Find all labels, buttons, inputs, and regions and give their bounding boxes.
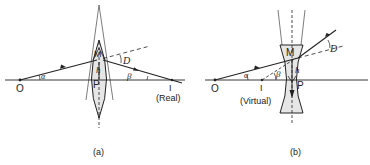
label-a-p: P <box>93 79 100 90</box>
caption-a: (a) <box>93 147 104 157</box>
label-b-alpha: α <box>244 71 249 80</box>
label-b-i: I <box>260 83 263 93</box>
point-b-i <box>261 79 263 81</box>
label-a-o: O <box>16 83 24 94</box>
point-a-i <box>171 79 173 81</box>
label-b-virtual: (Virtual) <box>240 96 271 106</box>
angle-a-alpha-arc <box>39 75 40 80</box>
point-b-o <box>214 79 217 82</box>
lens-ray-diagrams: O I (Real) M P h α β D (a) <box>0 0 370 165</box>
figure-a: O I (Real) M P h α β D (a) <box>5 5 185 157</box>
label-a-real: (Real) <box>156 93 181 103</box>
label-b-p: P <box>297 80 304 91</box>
label-a-h: h <box>96 65 101 75</box>
label-a-i: I <box>169 83 172 93</box>
lens-b-outer-left <box>278 10 282 45</box>
ray-b-extension <box>298 46 345 59</box>
label-a-d: D <box>122 55 131 66</box>
label-b-d: D <box>329 43 338 54</box>
caption-b: (b) <box>290 147 301 157</box>
point-a-o <box>19 79 22 82</box>
arrow-a-refracted-icon <box>133 67 139 71</box>
angle-a-d-arc <box>120 55 121 63</box>
angle-a-beta-arc <box>147 76 148 80</box>
label-a-m: M <box>94 49 102 59</box>
ray-a-incident <box>20 60 97 80</box>
label-b-h: h <box>295 65 300 75</box>
label-a-beta: β <box>126 71 132 81</box>
figure-b: O I (Virtual) M P h α β D (b) <box>205 10 368 157</box>
lens-b-outer-right <box>301 10 305 45</box>
label-b-beta: β <box>275 69 281 79</box>
label-b-o: O <box>211 83 219 94</box>
label-b-m: M <box>286 47 294 58</box>
